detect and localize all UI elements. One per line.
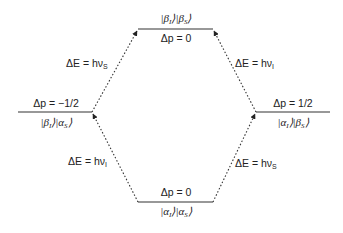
level-top-delta-p: Δp = 0 [161, 33, 192, 44]
energy-level-diagram: |βI⟩|βS⟩ Δp = 0 Δp = −1/2 |βI⟩|αS⟩ Δp = … [0, 0, 343, 233]
transition-left-upper-arrow [92, 31, 137, 112]
level-left-state: |βI⟩|αS⟩ [40, 117, 71, 130]
level-left-delta-p: Δp = −1/2 [33, 98, 79, 109]
level-bottom-delta-p: Δp = 0 [161, 187, 192, 198]
transition-right-upper-arrow [214, 31, 256, 112]
transition-left-upper-label: ΔE = hνS [66, 58, 108, 70]
level-top-state: |βI⟩|βS⟩ [161, 13, 192, 26]
transition-right-upper-label: ΔE = hνI [235, 58, 274, 70]
transition-right-lower-label: ΔE = hνS [235, 158, 277, 170]
level-bottom-state: |αI⟩|αS⟩ [160, 206, 191, 219]
level-right-delta-p: Δp = 1/2 [273, 98, 312, 109]
level-right-state: |αI⟩|βS⟩ [277, 117, 308, 130]
transition-left-lower-label: ΔE = hνI [68, 156, 107, 168]
